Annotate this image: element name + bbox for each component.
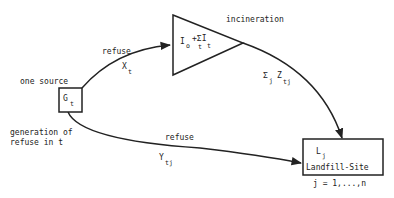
incinerator-formula-sub1: o [186, 42, 190, 50]
landfill-label: Landfill-Site [306, 163, 369, 172]
edge-var-x: X [122, 62, 127, 71]
source-node: G t one source generation of refuse in t [10, 77, 82, 147]
edge-sigma: Σ [263, 71, 268, 80]
source-subscript: t [70, 100, 74, 108]
incineration-label: incineration [226, 15, 284, 24]
landfill-index-range: j = 1,...,n [313, 179, 366, 188]
landfill-symbol: L [316, 147, 321, 156]
landfill-subscript: j [322, 152, 326, 160]
edge-incinerator-to-landfill [243, 43, 342, 138]
source-desc-line1: generation of [10, 128, 73, 137]
incinerator-formula-mid: +ΣI [192, 34, 207, 43]
source-label: one source [20, 77, 68, 86]
edge-var-y-sub: tj [165, 159, 173, 167]
incinerator-formula-sub3: t [207, 42, 211, 50]
edge-label-refuse-top: refuse [102, 47, 131, 56]
source-symbol: G [63, 94, 68, 103]
source-desc-line2: refuse in t [10, 138, 63, 147]
edge-sigma-sub: j [269, 77, 273, 85]
edge-var-y: Y [159, 153, 164, 162]
landfill-node: L j Landfill-Site j = 1,...,n [303, 139, 383, 188]
incinerator-formula-sub2: t [198, 43, 202, 51]
flow-diagram: G t one source generation of refuse in t… [0, 0, 394, 198]
edge-var-z: Z [277, 71, 282, 80]
incinerator-node: I o +ΣI t t incineration [173, 15, 284, 75]
incinerator-formula-main: I [180, 37, 185, 46]
edge-var-z-sub: tj [283, 78, 291, 86]
edge-var-x-sub: t [128, 68, 132, 76]
edge-label-refuse-bottom: refuse [165, 133, 194, 142]
